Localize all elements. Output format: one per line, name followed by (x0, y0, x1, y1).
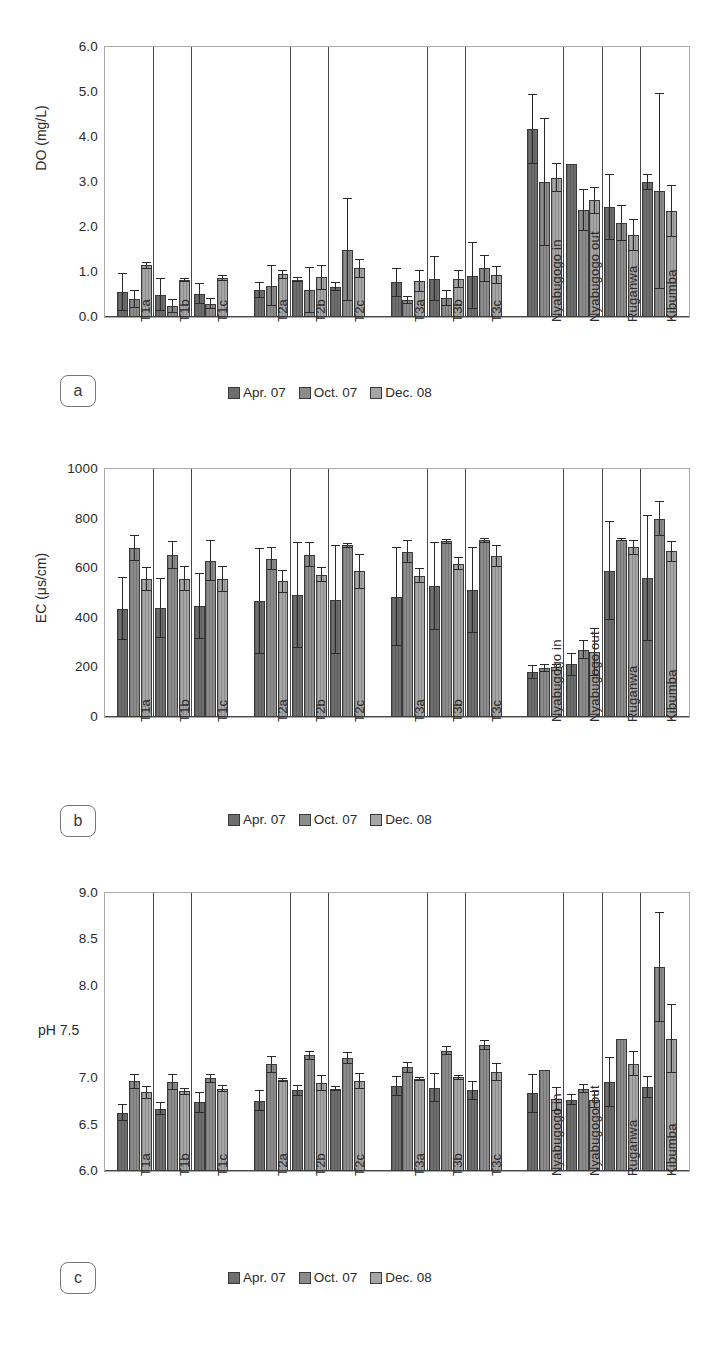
error-bar (491, 266, 502, 284)
bar (642, 1087, 653, 1171)
error-bar (205, 540, 216, 581)
error-bar (642, 515, 653, 641)
bar-group (330, 469, 365, 717)
bar-group (292, 893, 327, 1171)
x-axis-tick-label: Kibumba (664, 669, 679, 722)
bar (292, 1090, 303, 1171)
error-bar (217, 275, 228, 280)
bar (414, 576, 425, 717)
bar-group (391, 469, 426, 717)
bar (179, 579, 190, 717)
plot-area-do (104, 46, 690, 318)
y-axis-tick-label: 200 (38, 659, 98, 674)
error-bar (604, 174, 615, 240)
error-bar (117, 1104, 128, 1121)
legend-swatch (370, 387, 382, 399)
error-bar (628, 1051, 639, 1075)
error-bar (330, 545, 341, 654)
bar-group (254, 47, 289, 317)
bar (167, 555, 178, 717)
legend-do: Apr. 07Oct. 07Dec. 08 (228, 385, 432, 400)
bar (566, 1100, 577, 1171)
category-separator (640, 893, 641, 1171)
error-bar (194, 1092, 205, 1112)
x-axis-tick-label: T2b (313, 699, 328, 722)
error-bar (414, 270, 425, 293)
legend-label: Oct. 07 (314, 385, 358, 400)
legend-label: Dec. 08 (385, 1270, 432, 1285)
y-axis-tick-label: 5.0 (38, 84, 98, 99)
x-axis-tick-label: T3b (450, 299, 465, 322)
legend-swatch (228, 814, 240, 826)
error-bar (194, 573, 205, 638)
y-axis-tick-label: 6.0 (38, 1163, 98, 1178)
bar-group (194, 47, 229, 317)
bar-group (429, 47, 464, 317)
error-bar (616, 205, 627, 241)
error-bar (304, 1051, 315, 1060)
error-bar (354, 1073, 365, 1090)
bar-group (155, 893, 190, 1171)
error-bar (666, 1004, 677, 1073)
bar (467, 1090, 478, 1171)
error-bar (666, 541, 677, 562)
y-axis-tick-label: 7.0 (38, 1070, 98, 1085)
error-bar (117, 273, 128, 311)
error-bar (654, 93, 665, 288)
legend-item: Oct. 07 (299, 812, 358, 827)
category-separator (427, 469, 428, 717)
error-bar (402, 540, 413, 562)
error-bar (467, 1081, 478, 1100)
chart-panel-do: DO (mg/L) 0.01.02.03.04.05.06.0 T1aT1bT1… (0, 0, 726, 450)
bar (129, 548, 140, 717)
bar (155, 1109, 166, 1171)
x-axis-tick-label: T1b (177, 299, 192, 322)
error-bar (316, 567, 327, 582)
error-bar (414, 568, 425, 583)
bar (304, 555, 315, 717)
y-axis-tick-label: 600 (38, 560, 98, 575)
error-bar (141, 262, 152, 269)
error-bar (278, 1078, 289, 1082)
legend-item: Dec. 08 (370, 1270, 432, 1285)
bar (205, 561, 216, 717)
x-axis-tick-label: T1c (215, 700, 230, 722)
legend-item: Oct. 07 (299, 1270, 358, 1285)
legend-ec: Apr. 07Oct. 07Dec. 08 (228, 812, 432, 827)
error-bar (604, 521, 615, 620)
bar (117, 1113, 128, 1171)
bar (217, 579, 228, 717)
bar-group (155, 47, 190, 317)
bar-group (467, 893, 502, 1171)
y-axis-tick-label: 0.0 (38, 309, 98, 324)
error-bar (441, 1046, 452, 1055)
bar-group (467, 469, 502, 717)
legend-item: Apr. 07 (228, 812, 286, 827)
error-bar (467, 242, 478, 310)
error-bar (254, 282, 265, 297)
error-bar (642, 1076, 653, 1098)
panel-label-c: c (60, 1262, 96, 1294)
y-axis-tick-label: 800 (38, 510, 98, 525)
y-axis-tick-label: 9.0 (38, 885, 98, 900)
category-separator (290, 47, 291, 317)
legend-label: Dec. 08 (385, 812, 432, 827)
bar (453, 564, 464, 717)
error-bar (278, 570, 289, 593)
error-bar (179, 278, 190, 282)
plot-area-ph (104, 892, 690, 1172)
bar (292, 280, 303, 317)
legend-swatch (299, 387, 311, 399)
y-axis-tick-label: 6.0 (38, 39, 98, 54)
y-axis-label-ph: pH 7.5 (38, 1022, 79, 1038)
bar (266, 559, 277, 717)
legend-item: Dec. 08 (370, 385, 432, 400)
error-bar (354, 259, 365, 279)
x-axis-tick-label: Nyabugogo out (587, 1085, 602, 1176)
error-bar (129, 535, 140, 561)
category-separator (328, 893, 329, 1171)
bar (330, 1089, 341, 1171)
y-axis-tick-label: 3.0 (38, 174, 98, 189)
error-bar (292, 1085, 303, 1096)
x-axis-tick-label: T2b (313, 1153, 328, 1176)
